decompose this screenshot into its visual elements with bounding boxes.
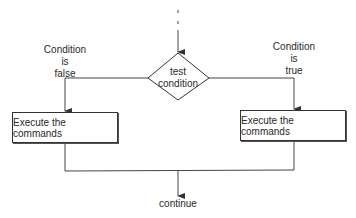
true-branch-label: Condition is true xyxy=(264,41,324,77)
false-label-line1: Condition xyxy=(35,44,95,56)
true-action-text: Execute the commands xyxy=(241,115,345,137)
true-label-line2: is xyxy=(264,53,324,65)
false-label-line2: is xyxy=(35,56,95,68)
false-branch-label: Condition is false xyxy=(35,44,95,80)
decision-label-line2: condition xyxy=(150,78,206,90)
false-label-line3: false xyxy=(35,68,95,80)
true-action-box: Execute the commands xyxy=(240,110,346,141)
false-action-box: Execute the commands xyxy=(12,112,118,143)
decision-label: test condition xyxy=(150,66,206,90)
flowchart-connectors xyxy=(0,0,356,218)
false-action-text: Execute the commands xyxy=(13,117,117,139)
true-label-line3: true xyxy=(264,65,324,77)
continue-label: continue xyxy=(148,198,208,210)
true-label-line1: Condition xyxy=(264,41,324,53)
decision-label-line1: test xyxy=(150,66,206,78)
